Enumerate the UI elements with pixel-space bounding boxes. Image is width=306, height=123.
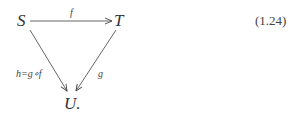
node-u: U.	[64, 94, 81, 113]
equation-number: (1.24)	[255, 13, 286, 29]
node-t: T	[114, 11, 125, 30]
label-f: f	[70, 7, 74, 18]
label-g: g	[98, 68, 103, 79]
arrow-g	[76, 30, 116, 91]
node-s: S	[17, 11, 26, 30]
label-h: h=g∘f	[16, 68, 43, 79]
arrow-h	[30, 30, 67, 91]
